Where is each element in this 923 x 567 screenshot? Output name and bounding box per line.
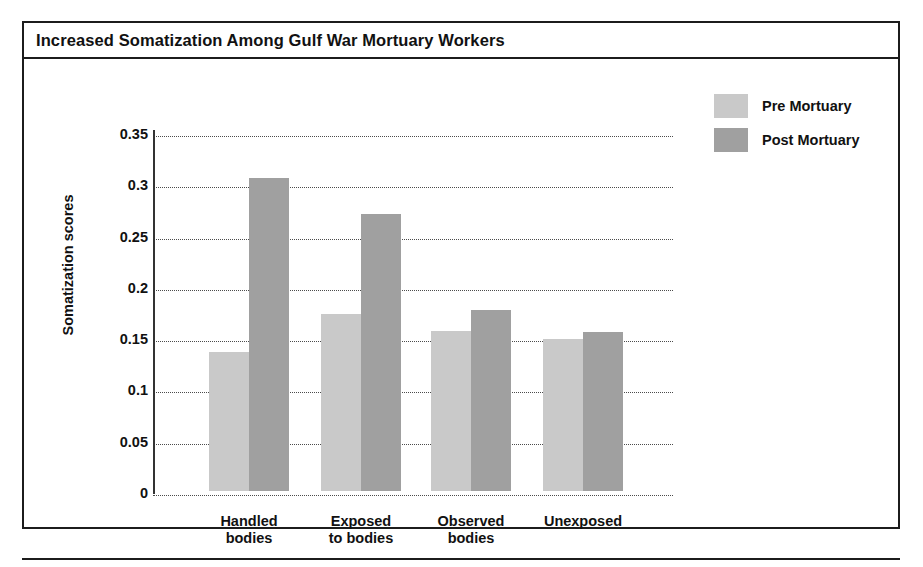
bar-pre [209,352,249,491]
legend-label-pre: Pre Mortuary [762,98,851,114]
x-axis-category-label: Exposedto bodies [299,513,423,547]
bar-pre [431,331,471,491]
figure-title: Increased Somatization Among Gulf War Mo… [36,31,505,50]
x-axis-category-label-line: to bodies [299,530,423,547]
bar-pre [321,314,361,491]
bar-post [249,178,289,491]
x-axis-category-label: Handledbodies [187,513,311,547]
legend-item-post: Post Mortuary [714,123,894,157]
x-axis-category-label-line: Handled [187,513,311,530]
x-axis-category-label: Observedbodies [409,513,533,547]
figure-page: Increased Somatization Among Gulf War Mo… [0,0,923,567]
figure-title-bar: Increased Somatization Among Gulf War Mo… [24,23,898,59]
x-axis-category-label-line: bodies [187,530,311,547]
legend-swatch-post-icon [714,128,748,152]
bar-pre [543,339,583,491]
x-axis-category-label-line: bodies [409,530,533,547]
bar-post [361,214,401,491]
x-axis-category-label-line: Unexposed [521,513,645,530]
chart-legend: Pre Mortuary Post Mortuary [714,89,894,157]
bar-post [471,310,511,491]
x-axis-category-label-line: Exposed [299,513,423,530]
figure-frame: Increased Somatization Among Gulf War Mo… [22,21,900,529]
page-bottom-rule [22,558,900,560]
plot-area: Somatization scores 0.350.30.250.20.150.… [24,59,898,527]
legend-swatch-pre-icon [714,94,748,118]
x-axis-category-label: Unexposed [521,513,645,530]
x-axis-category-label-line: Observed [409,513,533,530]
bar-post [583,332,623,491]
legend-label-post: Post Mortuary [762,132,860,148]
legend-item-pre: Pre Mortuary [714,89,894,123]
